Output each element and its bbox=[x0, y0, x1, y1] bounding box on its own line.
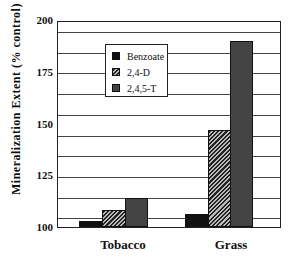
bar-grass-245t bbox=[230, 41, 253, 227]
legend-label: 2,4,5-T bbox=[127, 83, 156, 94]
legend-swatch-icon bbox=[112, 52, 120, 60]
legend: Benzoate 2,4-D 2,4,5-T bbox=[105, 44, 168, 97]
legend-label: Benzoate bbox=[127, 51, 164, 62]
legend-item-24d: 2,4-D bbox=[112, 66, 150, 78]
gridline bbox=[58, 32, 280, 33]
bar-tobacco-24d bbox=[102, 210, 126, 227]
bar-grass-benzoate bbox=[185, 214, 209, 227]
bar-tobacco-245t bbox=[125, 198, 148, 227]
y-axis-label: Mineralization Extent (% control) bbox=[9, 55, 23, 195]
legend-swatch-icon bbox=[112, 84, 120, 92]
y-tick-200: 200 bbox=[23, 14, 53, 26]
legend-item-benzoate: Benzoate bbox=[112, 50, 164, 62]
x-category-tobacco: Tobacco bbox=[83, 237, 163, 253]
y-tick-100: 100 bbox=[23, 221, 53, 233]
y-tick-175: 175 bbox=[23, 66, 53, 78]
bar-tobacco-benzoate bbox=[79, 221, 103, 227]
plot-area: Benzoate 2,4-D 2,4,5-T bbox=[57, 21, 281, 228]
legend-item-245t: 2,4,5-T bbox=[112, 82, 156, 94]
y-tick-150: 150 bbox=[23, 118, 53, 130]
x-category-grass: Grass bbox=[191, 237, 271, 253]
bar-grass-24d bbox=[208, 130, 231, 227]
legend-label: 2,4-D bbox=[127, 67, 150, 78]
legend-swatch-icon bbox=[112, 68, 120, 76]
y-tick-125: 125 bbox=[23, 169, 53, 181]
